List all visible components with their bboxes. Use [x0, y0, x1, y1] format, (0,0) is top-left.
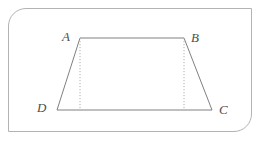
trapezoid-figure: A B D C [0, 0, 262, 142]
trapezoid-drawing [0, 0, 262, 142]
vertex-label-c: C [219, 103, 228, 116]
vertex-label-b: B [191, 31, 199, 44]
vertex-label-a: A [62, 30, 70, 43]
vertex-label-d: D [37, 101, 46, 114]
